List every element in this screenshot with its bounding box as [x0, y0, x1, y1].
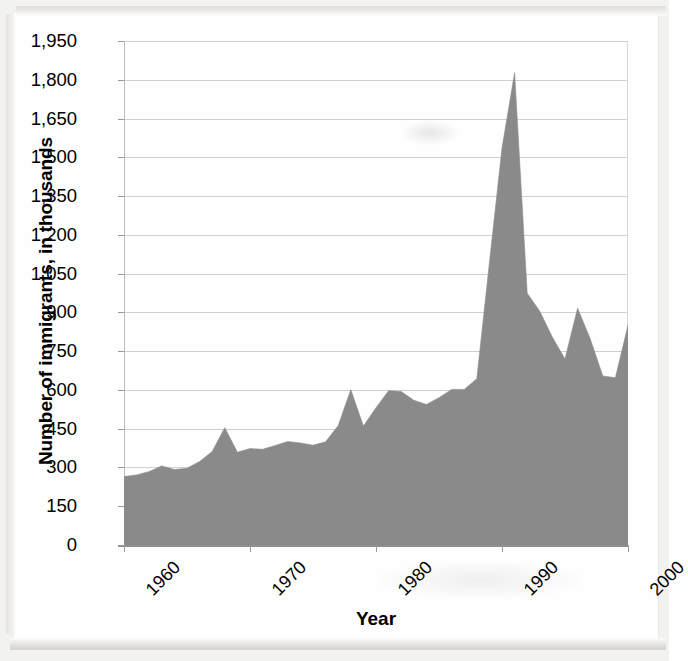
y-tick-mark: [118, 196, 124, 197]
y-tick-mark: [118, 157, 124, 158]
y-tick-mark: [118, 274, 124, 275]
y-tick-label: 1,650: [0, 108, 77, 130]
plot-area: 01503004506007509001,0501,2001,3501,5001…: [124, 41, 628, 545]
y-tick-label: 1,350: [0, 185, 77, 207]
y-tick-mark: [118, 80, 124, 81]
x-tick-label: 2000: [646, 557, 688, 600]
y-tick-label: 750: [0, 340, 77, 362]
y-tick-mark: [118, 506, 124, 507]
x-tick-mark: [250, 545, 251, 552]
y-tick-mark: [118, 467, 124, 468]
y-tick-mark: [118, 351, 124, 352]
x-tick-label: 1960: [142, 557, 185, 600]
y-tick-label: 1,050: [0, 263, 77, 285]
y-tick-mark: [118, 41, 124, 42]
x-tick-label: 1970: [268, 557, 311, 600]
y-tick-label: 300: [0, 456, 77, 478]
y-tick-label: 1,950: [0, 30, 77, 52]
x-axis-line: [118, 545, 628, 547]
y-tick-label: 1,200: [0, 224, 77, 246]
y-tick-label: 150: [0, 495, 77, 517]
y-tick-label: 0: [0, 534, 77, 556]
x-tick-mark: [124, 545, 125, 552]
y-tick-label: 600: [0, 379, 77, 401]
area-series: [124, 41, 628, 546]
x-tick-label: 1980: [394, 557, 437, 600]
y-tick-mark: [118, 235, 124, 236]
y-tick-label: 1,500: [0, 146, 77, 168]
x-axis-title: Year: [124, 608, 628, 630]
area-series-path: [124, 73, 628, 545]
x-tick-mark: [376, 545, 377, 552]
x-tick-mark: [628, 545, 629, 552]
y-tick-mark: [118, 119, 124, 120]
x-tick-mark: [502, 545, 503, 552]
y-tick-label: 450: [0, 418, 77, 440]
x-tick-label: 1990: [520, 557, 563, 600]
y-tick-mark: [118, 312, 124, 313]
y-tick-label: 900: [0, 301, 77, 323]
y-tick-mark: [118, 390, 124, 391]
y-tick-label: 1,800: [0, 69, 77, 91]
y-tick-mark: [118, 429, 124, 430]
